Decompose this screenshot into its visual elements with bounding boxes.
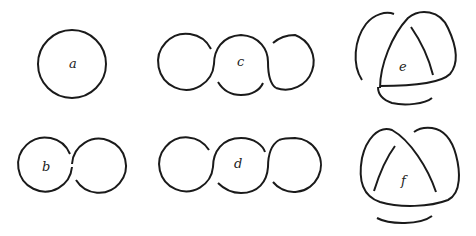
- diagram-e: e: [356, 12, 456, 104]
- diagram-d: d: [159, 137, 321, 193]
- diagram-a: a: [38, 30, 106, 98]
- label-f: f: [400, 173, 408, 188]
- diagram-b: b: [18, 137, 126, 192]
- label-b: b: [42, 159, 50, 174]
- diagram-f: f: [361, 128, 459, 223]
- label-e: e: [399, 59, 407, 74]
- diagram-c: c: [158, 34, 314, 95]
- knot-diagram-figure: a b c d: [0, 0, 476, 236]
- label-a: a: [69, 56, 77, 71]
- label-d: d: [234, 156, 242, 171]
- label-c: c: [237, 54, 245, 69]
